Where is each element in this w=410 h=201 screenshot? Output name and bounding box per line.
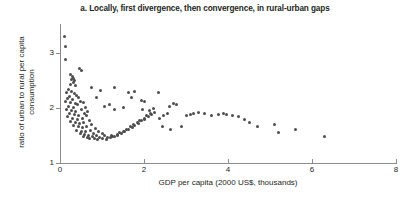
scatter-point	[69, 101, 72, 104]
scatter-point	[231, 114, 234, 117]
y-tick-label: 3	[40, 49, 54, 57]
scatter-point	[88, 119, 91, 122]
scatter-point	[294, 128, 297, 131]
y-tick-label: 2	[40, 104, 54, 112]
scatter-point	[111, 135, 114, 138]
scatter-point	[148, 109, 151, 112]
scatter-point	[277, 131, 280, 134]
scatter-point	[86, 110, 89, 113]
scatter-point	[141, 108, 144, 111]
plot-area	[60, 26, 396, 163]
scatter-point	[158, 117, 161, 120]
x-tick-label: 6	[302, 166, 322, 174]
scatter-point	[73, 79, 76, 82]
scatter-point	[76, 103, 79, 106]
scatter-point	[113, 108, 116, 111]
scatter-point	[69, 83, 72, 86]
x-tick-label: 2	[134, 166, 154, 174]
scatter-point	[175, 103, 178, 106]
scatter-point	[273, 123, 276, 126]
scatter-point	[143, 117, 146, 120]
scatter-point	[99, 89, 102, 92]
scatter-point	[143, 100, 146, 103]
scatter-point	[82, 101, 85, 104]
scatter-point	[65, 91, 68, 94]
scatter-point	[90, 123, 93, 126]
scatter-point	[101, 137, 104, 140]
scatter-point	[85, 114, 88, 117]
scatter-point	[162, 114, 165, 117]
scatter-point	[161, 125, 164, 128]
scatter-point	[197, 111, 200, 114]
scatter-point	[116, 134, 119, 137]
scatter-point	[64, 45, 67, 48]
scatter-point	[80, 69, 83, 72]
scatter-point	[113, 86, 116, 89]
scatter-point	[168, 105, 171, 108]
scatter-point	[130, 96, 133, 99]
scatter-point	[73, 113, 76, 116]
scatter-point	[157, 91, 160, 94]
x-tick-label: 8	[386, 166, 406, 174]
scatter-point	[243, 118, 246, 121]
scatter-point	[217, 113, 220, 116]
scatter-point	[64, 100, 67, 103]
scatter-point	[64, 58, 67, 61]
scatter-point	[72, 124, 75, 127]
chart-figure: a. Locally, first divergence, then conve…	[0, 0, 410, 201]
scatter-point	[103, 105, 106, 108]
scatter-point	[65, 108, 68, 111]
scatter-point	[210, 114, 213, 117]
scatter-point	[90, 86, 93, 89]
scatter-point	[95, 96, 98, 99]
scatter-point	[192, 112, 195, 115]
x-axis-title: GDP per capita (2000 US$, thousands)	[60, 178, 396, 187]
scatter-point	[85, 125, 88, 128]
scatter-point	[248, 121, 251, 124]
scatter-point	[203, 112, 206, 115]
scatter-point	[70, 109, 73, 112]
scatter-point	[237, 115, 240, 118]
scatter-point	[127, 91, 130, 94]
y-axis-title: ratio of urban to rural per capita consu…	[17, 27, 37, 157]
scatter-point	[166, 112, 169, 115]
scatter-point	[89, 129, 92, 132]
x-tick-mark	[396, 159, 397, 164]
scatter-point	[77, 125, 80, 128]
scatter-point	[97, 130, 100, 133]
scatter-point	[225, 113, 228, 116]
scatter-point	[66, 115, 69, 118]
scatter-point	[96, 138, 99, 141]
scatter-point	[323, 135, 326, 138]
scatter-point	[169, 128, 172, 131]
scatter-points-layer	[60, 26, 396, 163]
x-tick-label: 0	[50, 166, 70, 174]
scatter-point	[81, 117, 84, 120]
scatter-point	[132, 123, 135, 126]
scatter-point	[108, 103, 111, 106]
scatter-point	[94, 127, 97, 130]
chart-title: a. Locally, first divergence, then conve…	[0, 4, 410, 13]
scatter-point	[75, 129, 78, 132]
scatter-point	[72, 106, 75, 109]
scatter-point	[80, 108, 83, 111]
scatter-point	[77, 96, 80, 99]
scatter-point	[82, 135, 85, 138]
scatter-point	[125, 128, 128, 131]
scatter-point	[71, 117, 74, 120]
scatter-point	[185, 114, 188, 117]
scatter-point	[67, 105, 70, 108]
scatter-point	[122, 106, 125, 109]
scatter-point	[152, 107, 155, 110]
x-tick-label: 4	[218, 166, 238, 174]
scatter-point	[81, 126, 84, 129]
scatter-point	[133, 90, 136, 93]
scatter-point	[84, 106, 87, 109]
scatter-point	[74, 84, 77, 87]
scatter-point	[79, 132, 82, 135]
scatter-point	[105, 138, 108, 141]
scatter-point	[153, 111, 156, 114]
scatter-point	[180, 125, 183, 128]
scatter-point	[77, 114, 80, 117]
scatter-point	[82, 121, 85, 124]
